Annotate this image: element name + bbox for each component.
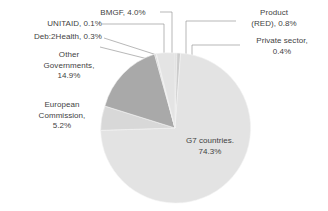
leader-line-unitaid	[102, 24, 164, 55]
pie-slices	[101, 53, 251, 203]
pie-label-debt2health: Deb:2Health, 0.3%	[2, 32, 102, 43]
pie-label-private-sector: Private sector, 0.4%	[240, 36, 324, 57]
pie-label-bmgf: BMGF, 4.0%	[86, 8, 160, 19]
pie-label-unitaid: UNITAID, 0.1%	[14, 19, 102, 30]
leader-line-debt2health	[104, 38, 160, 56]
pie-chart-figure: BMGF, 4.0% UNITAID, 0.1% Deb:2Health, 0.…	[0, 0, 328, 211]
leader-line-private-sector	[192, 45, 240, 55]
pie-label-product-red: Product (RED), 0.8%	[238, 8, 310, 29]
pie-label-other-governments: Other Governments, 14.9%	[32, 50, 106, 82]
pie-label-european-commission: European Commission, 5.2%	[20, 100, 104, 132]
leader-line-bmgf	[160, 12, 172, 56]
pie-label-g7-countries: G7 countries. 74.3%	[172, 136, 248, 157]
leader-line-product-red	[186, 21, 236, 56]
